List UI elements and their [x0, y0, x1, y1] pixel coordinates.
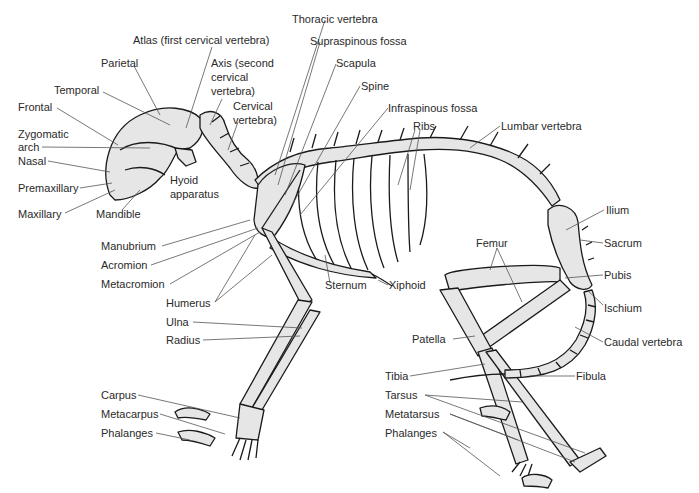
label-zygomatic-arch: Zygomatic [18, 128, 69, 141]
label-patella: Patella [412, 333, 446, 346]
label-hyoid-apparatus: Hyoid [170, 174, 198, 187]
label-ribs: Ribs [413, 120, 435, 133]
label-maxillary: Maxillary [18, 208, 61, 221]
label-cervical-vertebra: vertebra) [233, 114, 277, 127]
label-zygomatic-arch: arch [18, 141, 39, 154]
label-axis: vertebra) [211, 85, 255, 98]
label-temporal: Temporal [54, 84, 99, 97]
label-frontal: Frontal [18, 101, 52, 114]
label-carpus: Carpus [101, 389, 136, 402]
label-ulna: Ulna [166, 316, 189, 329]
label-ischium: Ischium [604, 302, 642, 315]
label-phalanges-hind: Phalanges [385, 427, 437, 440]
label-ilium: Ilium [606, 204, 629, 217]
label-nasal: Nasal [18, 155, 46, 168]
label-fibula: Fibula [576, 370, 606, 383]
label-atlas: Atlas (first cervical vertebra) [133, 34, 269, 47]
label-cervical-vertebra: Cervical [233, 100, 273, 113]
label-mandible: Mandible [96, 208, 141, 221]
label-hyoid-apparatus: apparatus [170, 188, 219, 201]
label-infraspinous-fossa: Infraspinous fossa [388, 102, 477, 115]
label-manubrium: Manubrium [101, 240, 156, 253]
label-radius: Radius [166, 334, 200, 347]
label-metatarsus: Metatarsus [385, 408, 439, 421]
label-thoracic-vertebra: Thoracic vertebra [292, 13, 378, 26]
label-sacrum: Sacrum [604, 237, 642, 250]
label-axis: Axis (second [211, 57, 274, 70]
label-pubis: Pubis [604, 269, 632, 282]
label-spine: Spine [361, 80, 389, 93]
label-scapula: Scapula [336, 57, 376, 70]
label-supraspinous-fossa: Supraspinous fossa [310, 35, 407, 48]
label-xiphoid: Xiphoid [389, 279, 426, 292]
label-femur: Femur [476, 237, 508, 250]
label-parietal: Parietal [101, 57, 138, 70]
label-tibia: Tibia [385, 370, 408, 383]
cat-skeleton-diagram: Atlas (first cervical vertebra) Thoracic… [0, 0, 699, 493]
label-acromion: Acromion [101, 259, 147, 272]
label-axis: cervical [211, 71, 248, 84]
label-metacromion: Metacromion [101, 278, 165, 291]
label-sternum: Sternum [325, 279, 367, 292]
label-premaxillary: Premaxillary [18, 182, 79, 195]
label-caudal-vertebra: Caudal vertebra [604, 336, 682, 349]
label-phalanges-fore: Phalanges [101, 427, 153, 440]
label-tarsus: Tarsus [385, 389, 417, 402]
label-lumbar-vertebra: Lumbar vertebra [501, 120, 582, 133]
label-metacarpus: Metacarpus [101, 408, 158, 421]
label-humerus: Humerus [166, 297, 211, 310]
